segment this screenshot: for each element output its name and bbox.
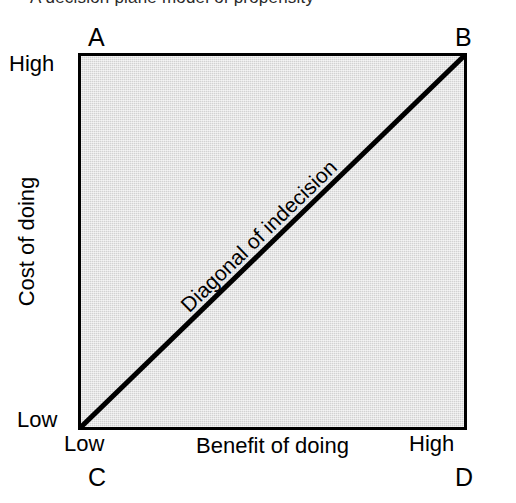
figure-caption-clipped: A decision plane model of propensity: [0, 0, 516, 9]
corner-label-c: C: [88, 465, 106, 490]
x-axis-title: Benefit of doing: [78, 433, 467, 459]
corner-label-a: A: [88, 25, 105, 50]
corner-label-d: D: [455, 465, 473, 490]
diagonal-of-indecision-line: [81, 56, 464, 427]
corner-label-b: B: [455, 25, 472, 50]
figure-caption-text: A decision plane model of propensity: [30, 0, 314, 8]
decision-plane-box: Diagonal of indecision: [78, 53, 467, 430]
y-axis-title: Cost of doing: [11, 53, 43, 430]
